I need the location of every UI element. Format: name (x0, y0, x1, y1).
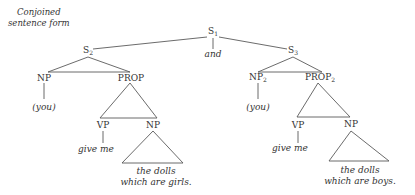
dolls-girls-line-2: which are girls. (120, 177, 191, 188)
node-s1: S1 (208, 27, 218, 37)
dolls-boys-line-2: which are boys. (324, 176, 396, 187)
caption-line-1: Conjoined (8, 7, 70, 18)
node-give-me-left: give me (78, 145, 114, 154)
diagram-caption: Conjoined sentence form (8, 7, 70, 29)
node-vp-right: VP (292, 121, 305, 130)
node-you-left: (you) (32, 103, 55, 112)
node-s3: S3 (288, 46, 298, 56)
node-you-right: (you) (246, 103, 269, 112)
node-np-left: NP (37, 74, 51, 83)
node-np-obj-left: NP (146, 121, 160, 130)
node-s2: S2 (83, 46, 93, 56)
caption-line-2: sentence form (8, 18, 70, 29)
dolls-boys-line-1: the dolls (324, 165, 396, 176)
node-np2-right: NP2 (249, 73, 267, 83)
node-give-me-right: give me (272, 144, 308, 153)
node-prop2-right: PROP2 (305, 73, 335, 83)
node-prop-left: PROP (118, 74, 144, 83)
node-and: and (205, 50, 222, 59)
node-vp-left: VP (97, 121, 110, 130)
node-np-obj-right: NP (344, 120, 358, 129)
node-dolls-girls: the dolls which are girls. (120, 166, 191, 188)
dolls-girls-line-1: the dolls (120, 166, 191, 177)
node-dolls-boys: the dolls which are boys. (324, 165, 396, 187)
